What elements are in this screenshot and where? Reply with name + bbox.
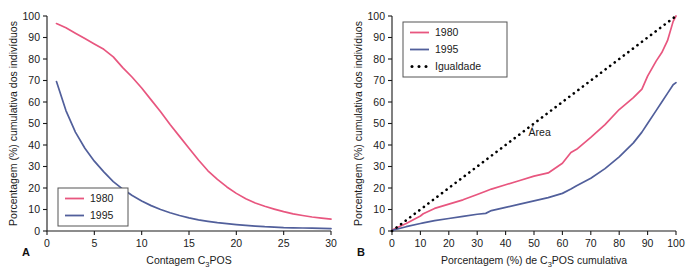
y-tick-label: 100 [22, 10, 40, 22]
y-tick-label: 80 [28, 53, 40, 65]
panel-a-letter: A [22, 246, 30, 258]
y-tick-label: 70 [28, 74, 40, 86]
x-tick-label: 15 [183, 237, 195, 249]
panel-b: B 01020304050607080901000102030405060708… [345, 0, 690, 273]
x-tick-label: 20 [230, 237, 242, 249]
x-tick-label: 60 [557, 237, 569, 249]
y-tick-label: 60 [28, 96, 40, 108]
legend-swatch-dot [418, 65, 421, 68]
x-tick-label: 70 [585, 237, 597, 249]
x-axis-title-post: POS cumulativa [552, 254, 627, 266]
y-tick-label: 90 [28, 31, 40, 43]
y-tick-label: 50 [373, 117, 385, 129]
x-tick-label: 10 [136, 237, 148, 249]
x-tick-label: 0 [44, 237, 50, 249]
x-tick-label: 30 [325, 237, 337, 249]
x-tick-label: 10 [415, 237, 427, 249]
y-tick-label: 0 [34, 225, 40, 237]
y-tick-label: 80 [373, 53, 385, 65]
y-tick-label: 30 [373, 160, 385, 172]
x-tick-label: 5 [91, 237, 97, 249]
x-tick-label: 100 [667, 237, 685, 249]
y-tick-label: 0 [379, 225, 385, 237]
panel-b-plot: 0102030405060708090100010203040506070809… [345, 0, 690, 273]
legend: 19801995Igualdade [403, 22, 507, 77]
legend: 19801995 [58, 188, 128, 226]
legend-label-igualdade[interactable]: Igualdade [435, 60, 481, 72]
x-tick-label: 20 [443, 237, 455, 249]
x-tick-label: 40 [500, 237, 512, 249]
y-tick-label: 20 [373, 182, 385, 194]
y-tick-label: 30 [28, 160, 40, 172]
legend-label-1995[interactable]: 1995 [435, 43, 459, 55]
y-tick-label: 90 [373, 31, 385, 43]
x-tick-label: 0 [389, 237, 395, 249]
x-tick-label: 80 [613, 237, 625, 249]
x-axis-title-post: POS [209, 254, 231, 266]
y-tick-label: 70 [373, 74, 385, 86]
panel-a-plot: 0102030405060708090100051015202530Contag… [0, 0, 345, 273]
panel-b-letter: B [357, 246, 365, 258]
area-annotation: Área [529, 126, 551, 138]
x-axis-title-pre: Contagem C [146, 254, 205, 266]
y-tick-label: 10 [373, 203, 385, 215]
y-tick-label: 40 [28, 139, 40, 151]
panel-a: A 0102030405060708090100051015202530Cont… [0, 0, 345, 273]
y-tick-label: 40 [373, 139, 385, 151]
legend-swatch-dot [411, 65, 414, 68]
y-tick-label: 10 [28, 203, 40, 215]
x-axis-title: Porcentagem (%) de C3POS cumulativa [441, 254, 627, 269]
legend-label-1980[interactable]: 1980 [435, 26, 459, 38]
legend-label-1995[interactable]: 1995 [90, 209, 114, 221]
x-tick-label: 90 [642, 237, 654, 249]
y-axis-title: Porcentagem (%) cumulativa dos indivíduo… [7, 21, 19, 226]
legend-label-1980[interactable]: 1980 [90, 192, 114, 204]
y-tick-label: 20 [28, 182, 40, 194]
legend-swatch-dot [425, 65, 428, 68]
x-axis-title-pre: Porcentagem (%) de C [441, 254, 548, 266]
y-axis-title: Porcentagem (%) cumulativa dos indivíduo… [352, 21, 364, 226]
x-tick-label: 50 [528, 237, 540, 249]
figure-container: A 0102030405060708090100051015202530Cont… [0, 0, 690, 273]
x-axis-title: Contagem C3POS [146, 254, 231, 269]
x-tick-label: 25 [278, 237, 290, 249]
y-tick-label: 100 [367, 10, 385, 22]
x-tick-label: 30 [471, 237, 483, 249]
y-tick-label: 60 [373, 96, 385, 108]
y-tick-label: 50 [28, 117, 40, 129]
